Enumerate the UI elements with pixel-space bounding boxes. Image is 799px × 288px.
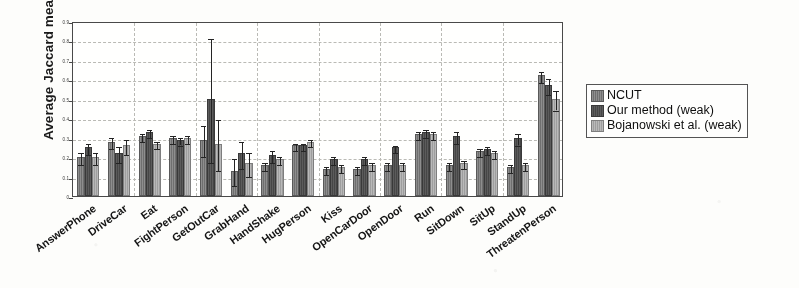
error-bar-cap-lower	[301, 151, 306, 152]
error-bar-cap-upper	[277, 157, 282, 158]
bar	[552, 99, 559, 196]
error-bar	[419, 132, 420, 140]
error-bar-cap-lower	[270, 163, 275, 164]
error-bar-cap-upper	[170, 136, 175, 137]
error-bar-cap-upper	[216, 120, 221, 121]
error-bar-cap-lower	[339, 173, 344, 174]
error-bar	[357, 167, 358, 175]
error-bar-cap-lower	[262, 171, 267, 172]
error-bar-cap-upper	[369, 163, 374, 164]
error-bar-cap-upper	[124, 140, 129, 141]
error-bar-cap-lower	[178, 146, 183, 147]
error-bar-cap-upper	[416, 132, 421, 133]
y-axis-title: Average Jaccard measure	[41, 0, 56, 146]
x-gridline	[441, 23, 442, 196]
error-bar-cap-lower	[393, 153, 398, 154]
error-bar-cap-upper	[208, 39, 213, 40]
error-bar	[388, 163, 389, 171]
error-bar-cap-upper	[185, 136, 190, 137]
error-bar	[303, 144, 304, 152]
error-bar	[218, 120, 219, 171]
error-bar-cap-lower	[154, 149, 159, 150]
error-bar-cap-lower	[293, 151, 298, 152]
legend-swatch	[591, 120, 604, 132]
error-bar	[518, 134, 519, 146]
bar	[392, 147, 399, 196]
y-axis-tick	[69, 101, 73, 102]
error-bar	[157, 142, 158, 150]
error-bar	[511, 165, 512, 173]
error-bar-cap-lower	[140, 142, 145, 143]
error-bar-cap-upper	[201, 126, 206, 127]
plot-area: 00.10.20.30.40.50.60.70.80.9	[72, 22, 563, 197]
error-bar-cap-upper	[523, 163, 528, 164]
y-axis-tick	[69, 120, 73, 121]
x-gridline	[196, 23, 197, 196]
error-bar-cap-upper	[477, 149, 482, 150]
error-bar	[272, 151, 273, 163]
error-bar-cap-lower	[93, 165, 98, 166]
error-bar	[150, 130, 151, 138]
figure: Average Jaccard measure 00.10.20.30.40.5…	[0, 0, 799, 288]
y-gridline	[73, 62, 562, 63]
error-bar-cap-lower	[492, 159, 497, 160]
error-bar	[96, 153, 97, 165]
error-bar-cap-upper	[431, 132, 436, 133]
bar	[538, 75, 545, 196]
error-bar-cap-lower	[416, 140, 421, 141]
error-bar-cap-upper	[362, 157, 367, 158]
error-bar-cap-upper	[178, 138, 183, 139]
error-bar-cap-lower	[546, 95, 551, 96]
error-bar-cap-lower	[423, 138, 428, 139]
y-axis-tick	[69, 179, 73, 180]
bar	[177, 140, 184, 196]
error-bar-cap-upper	[393, 146, 398, 147]
y-axis-tick-label: 0.8	[63, 40, 69, 45]
error-bar-cap-lower	[539, 83, 544, 84]
bar	[299, 145, 306, 196]
y-gridline	[73, 42, 562, 43]
error-bar-cap-lower	[308, 147, 313, 148]
error-bar-cap-lower	[239, 169, 244, 170]
error-bar-cap-upper	[339, 165, 344, 166]
error-bar-cap-upper	[539, 72, 544, 73]
error-bar	[81, 153, 82, 165]
error-bar-cap-upper	[385, 163, 390, 164]
error-bar-cap-lower	[477, 157, 482, 158]
error-bar-cap-upper	[301, 144, 306, 145]
legend-swatch	[591, 90, 604, 102]
error-bar	[487, 147, 488, 155]
error-bar-cap-upper	[546, 79, 551, 80]
y-axis-tick-label: 0.3	[63, 137, 69, 142]
error-bar	[365, 157, 366, 165]
y-axis-tick	[69, 42, 73, 43]
error-bar-cap-lower	[331, 165, 336, 166]
error-bar	[433, 132, 434, 140]
error-bar-cap-lower	[185, 144, 190, 145]
x-axis-tick-label: Eat	[139, 202, 160, 222]
error-bar-cap-upper	[140, 134, 145, 135]
error-bar	[541, 72, 542, 84]
bar	[153, 144, 160, 197]
y-axis-tick-label: 0.9	[63, 21, 69, 26]
bar	[307, 142, 314, 196]
error-bar-cap-lower	[208, 163, 213, 164]
bar	[139, 136, 146, 196]
legend-swatch	[591, 105, 604, 117]
bar	[453, 136, 460, 196]
legend-label: NCUT	[607, 89, 642, 102]
bar	[146, 132, 153, 196]
error-bar-cap-lower	[400, 171, 405, 172]
y-gridline	[73, 81, 562, 82]
error-bar	[142, 134, 143, 142]
error-bar-cap-lower	[447, 171, 452, 172]
error-bar	[112, 138, 113, 150]
error-bar-cap-lower	[170, 144, 175, 145]
error-bar-cap-lower	[109, 149, 114, 150]
error-bar	[334, 157, 335, 165]
error-bar-cap-lower	[385, 171, 390, 172]
error-bar-cap-lower	[147, 138, 152, 139]
error-bar-cap-upper	[324, 167, 329, 168]
error-bar-cap-upper	[116, 147, 121, 148]
error-bar	[341, 165, 342, 173]
